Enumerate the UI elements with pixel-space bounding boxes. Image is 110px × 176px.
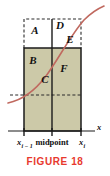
figure-diagram: A B C D E F x x i − 1 midpoint x i (0, 0, 110, 176)
region-label-B: B (28, 54, 36, 66)
right-tick-subscript: i (84, 143, 86, 149)
region-label-E: E (65, 33, 73, 45)
center-tick-label: midpoint (35, 137, 68, 147)
region-label-C: C (41, 73, 49, 85)
left-tick-subscript: i − 1 (22, 143, 33, 149)
region-label-D: D (55, 19, 64, 31)
x-axis-label: x (96, 122, 102, 132)
figure-caption: FIGURE 18 (0, 156, 110, 167)
region-label-F: F (59, 62, 68, 74)
figure-18-container: A B C D E F x x i − 1 midpoint x i FIGUR… (0, 0, 110, 176)
region-label-A: A (30, 24, 38, 36)
